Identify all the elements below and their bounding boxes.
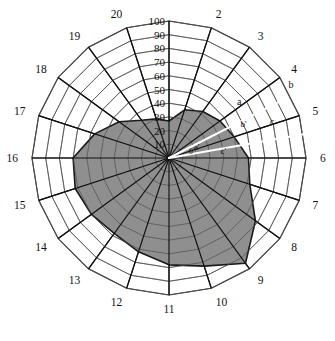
radial-tick-label: 90 (154, 29, 166, 41)
annotation-label-theta: θ (189, 146, 193, 156)
radial-tick-label: 30 (154, 111, 166, 123)
radial-tick-label: 70 (154, 56, 166, 68)
spoke-label-13: 13 (69, 274, 81, 286)
spoke-label-12: 12 (111, 296, 123, 308)
spoke-label-9: 9 (258, 274, 264, 286)
radial-tick-label: 50 (154, 84, 166, 96)
spoke-label-11: 11 (163, 303, 174, 315)
spoke-label-16: 16 (7, 152, 19, 164)
radial-tick-label: 40 (154, 97, 166, 109)
annotation-label-b-prime: b' (240, 119, 247, 129)
spoke-label-5: 5 (313, 105, 319, 117)
spoke-label-8: 8 (291, 241, 297, 253)
spoke-label-3: 3 (258, 30, 264, 42)
spoke-label-6: 6 (320, 152, 326, 164)
spoke-label-15: 15 (14, 199, 26, 211)
annotation-label-c-prime: c' (220, 146, 226, 156)
polar-chart-figure: 102030405060708090100 234567891011121314… (0, 0, 335, 341)
spoke-label-10: 10 (216, 296, 228, 308)
spoke-label-7: 7 (313, 199, 319, 211)
spoke-label-20: 20 (111, 8, 123, 20)
radial-tick-label: 100 (149, 15, 166, 27)
spoke-label-2: 2 (216, 8, 222, 20)
spoke-label-14: 14 (35, 241, 47, 253)
spoke-label-4: 4 (291, 63, 297, 75)
spoke-label-17: 17 (14, 105, 26, 117)
spoke-label-18: 18 (35, 63, 47, 75)
annotation-label-a: a (237, 96, 242, 107)
radial-tick-label: 60 (154, 70, 166, 82)
spoke-label-19: 19 (69, 30, 81, 42)
annotation-label-b: b (289, 79, 294, 90)
radial-tick-label: 10 (154, 138, 166, 150)
annotation-label-c: c (270, 116, 275, 127)
annotation-label-a-prime: a' (194, 142, 200, 152)
radial-tick-label: 20 (154, 125, 166, 137)
polar-chart-svg: 102030405060708090100 234567891011121314… (0, 0, 335, 341)
radial-tick-label: 80 (154, 42, 166, 54)
